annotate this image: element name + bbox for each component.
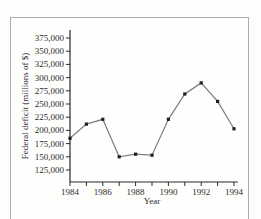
axes-layer: 125,000150,000175,000200,000225,000250,0… (35, 30, 244, 197)
federal-deficit-line-chart: 125,000150,000175,000200,000225,000250,0… (0, 0, 261, 219)
x-tick-label: 1988 (127, 187, 146, 197)
y-tick-label: 175,000 (35, 139, 65, 149)
x-tick-label: 1990 (159, 187, 178, 197)
x-tick-label: 1994 (225, 187, 244, 197)
x-axis-title: Year (144, 196, 161, 206)
y-axis-title: Federal deficit (millions of $) (20, 53, 30, 159)
data-point-marker (101, 118, 104, 121)
y-tick-label: 375,000 (35, 33, 65, 43)
y-tick-label: 250,000 (35, 99, 65, 109)
data-point-marker (150, 154, 153, 157)
y-tick-label: 125,000 (35, 165, 65, 175)
data-point-marker (134, 153, 137, 156)
data-point-marker (183, 92, 186, 95)
data-point-marker (118, 155, 121, 158)
y-tick-label: 150,000 (35, 152, 65, 162)
data-point-marker (68, 137, 71, 140)
x-tick-label: 1986 (94, 187, 113, 197)
y-tick-label: 350,000 (35, 46, 65, 56)
data-point-marker (200, 81, 203, 84)
data-point-marker (85, 123, 88, 126)
data-point-marker (216, 100, 219, 103)
x-tick-label: 1992 (192, 187, 210, 197)
data-point-marker (232, 127, 235, 130)
data-point-marker (167, 118, 170, 121)
y-tick-label: 200,000 (35, 125, 65, 135)
x-tick-label: 1984 (61, 187, 80, 197)
deficit-series-line (70, 83, 234, 157)
series-layer (68, 81, 235, 158)
y-tick-label: 275,000 (35, 86, 65, 96)
y-tick-label: 300,000 (35, 73, 65, 83)
scanned-page: 125,000150,000175,000200,000225,000250,0… (0, 0, 261, 219)
y-tick-label: 325,000 (35, 59, 65, 69)
y-tick-label: 225,000 (35, 112, 65, 122)
